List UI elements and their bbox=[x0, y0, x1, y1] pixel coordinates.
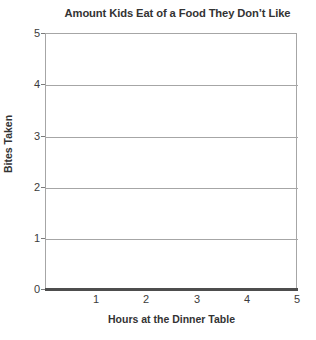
x-tick-label-4: 4 bbox=[235, 293, 259, 305]
y-tick-label-1: 1 bbox=[18, 232, 40, 244]
x-axis-line bbox=[45, 288, 298, 291]
y-tick-mark-5 bbox=[41, 33, 45, 34]
y-tick-label-2: 2 bbox=[18, 181, 40, 193]
chart-title: Amount Kids Eat of a Food They Don’t Lik… bbox=[40, 7, 315, 19]
y-tick-mark-4 bbox=[41, 84, 45, 85]
x-tick-label-3: 3 bbox=[185, 293, 209, 305]
chart-container: Amount Kids Eat of a Food They Don’t Lik… bbox=[0, 0, 316, 340]
x-tick-label-2: 2 bbox=[134, 293, 158, 305]
y-tick-mark-1 bbox=[41, 238, 45, 239]
y-tick-label-5: 5 bbox=[18, 27, 40, 39]
data-series-layer bbox=[46, 34, 298, 291]
y-axis-title: Bites Taken bbox=[2, 84, 14, 204]
y-tick-mark-3 bbox=[41, 136, 45, 137]
y-tick-label-3: 3 bbox=[18, 130, 40, 142]
y-tick-mark-2 bbox=[41, 187, 45, 188]
y-tick-label-4: 4 bbox=[18, 78, 40, 90]
x-tick-label-5: 5 bbox=[285, 293, 309, 305]
x-axis-title: Hours at the Dinner Table bbox=[45, 313, 298, 325]
x-tick-label-1: 1 bbox=[84, 293, 108, 305]
y-tick-label-0: 0 bbox=[18, 283, 40, 295]
y-tick-mark-0 bbox=[41, 289, 45, 290]
plot-area bbox=[45, 33, 297, 290]
